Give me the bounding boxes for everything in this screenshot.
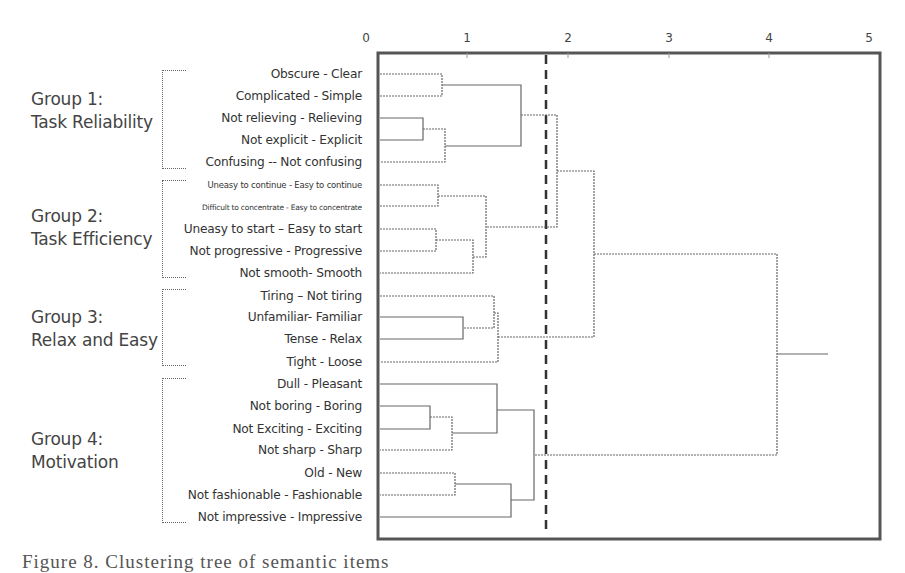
figure-caption: Figure 8. Clustering tree of semantic it… [22, 551, 390, 573]
dendrogram-branches [380, 74, 828, 517]
